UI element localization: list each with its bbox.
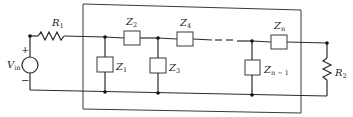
junction-dot (250, 93, 254, 97)
junction-dot (103, 35, 107, 39)
junction-dot (156, 36, 160, 40)
impedance-z2 (124, 31, 140, 45)
label-zn: Zn (273, 20, 285, 33)
label-minus: − (21, 75, 29, 86)
label-z3: Z3 (168, 62, 180, 75)
impedance-z3 (150, 58, 166, 73)
label-z2: Z2 (125, 16, 137, 29)
network-enclosure (83, 4, 301, 113)
voltage-source (22, 57, 38, 73)
impedance-zn-1 (245, 60, 260, 75)
label-zn-1: Zn − 1 (263, 64, 289, 77)
circuit-diagram: R1 R2 Vin + − Z1 Z2 Z3 Z4 Zn − 1 Zn (0, 0, 353, 117)
label-plus: + (21, 44, 29, 55)
impedance-z4 (177, 32, 193, 46)
impedance-z1 (97, 57, 113, 72)
label-z4: Z4 (179, 17, 191, 30)
junction-dot (325, 41, 329, 45)
label-r1: R1 (51, 17, 64, 30)
resistor-r1 (38, 32, 64, 40)
junction-dot (28, 34, 32, 38)
resistor-r2 (323, 58, 331, 80)
impedance-zn (271, 35, 287, 49)
label-vin: Vin (7, 59, 21, 72)
junction-dot (156, 91, 160, 95)
label-r2: R2 (334, 67, 347, 80)
label-z1: Z1 (115, 61, 127, 74)
junction-dot (103, 90, 107, 94)
junction-dot (250, 39, 254, 43)
